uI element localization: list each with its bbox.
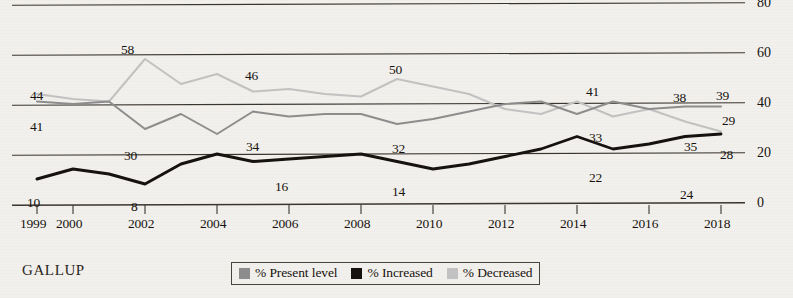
chart-page: 1999200020022004200620082010201220142016… xyxy=(0,0,793,298)
legend-swatch-increased xyxy=(351,268,362,279)
x-tick-label-2002: 2002 xyxy=(128,216,154,232)
series-line-present-level xyxy=(37,102,721,135)
y-tick-label-60: 60 xyxy=(757,45,771,61)
gallup-wordmark: GALLUP xyxy=(22,262,85,279)
series-lines-group xyxy=(37,59,721,184)
x-axis-ticks-group xyxy=(37,205,721,214)
data-label-38-2016: 38 xyxy=(673,90,686,106)
series-line-decreased xyxy=(37,59,721,132)
data-label-41-1999: 41 xyxy=(30,119,43,135)
data-label-29-2018: 29 xyxy=(722,113,735,129)
legend-label-decreased: % Decreased xyxy=(463,265,533,281)
data-label-16-2005: 16 xyxy=(275,179,288,195)
data-label-44-1999: 44 xyxy=(30,88,43,104)
data-label-33-2014: 33 xyxy=(589,130,602,146)
x-tick-label-2000: 2000 xyxy=(56,216,82,232)
x-tick-label-2012: 2012 xyxy=(488,216,514,232)
x-tick-label-2018: 2018 xyxy=(704,216,730,232)
y-tick-label-0: 0 xyxy=(757,195,764,211)
legend-label-increased: % Increased xyxy=(367,265,432,281)
data-label-24-2016: 24 xyxy=(680,187,693,203)
gridlines-group xyxy=(12,3,745,205)
data-label-30-2002: 30 xyxy=(124,148,137,164)
gridline-20 xyxy=(12,153,745,155)
y-tick-label-80: 80 xyxy=(757,0,771,11)
x-tick-label-2004: 2004 xyxy=(200,216,226,232)
data-label-46-2005: 46 xyxy=(245,68,258,84)
x-tick-label-2014: 2014 xyxy=(560,216,586,232)
legend-label-present-level: % Present level xyxy=(255,265,337,281)
gridline-0 xyxy=(12,203,745,205)
x-tick-label-1999: 1999 xyxy=(20,216,46,232)
data-label-8-2002: 8 xyxy=(131,199,138,215)
data-label-22-2014: 22 xyxy=(589,170,602,186)
legend-item-present-level[interactable]: % Present level xyxy=(239,265,337,281)
legend-item-increased[interactable]: % Increased xyxy=(351,265,432,281)
legend-item-decreased[interactable]: % Decreased xyxy=(447,265,533,281)
data-label-35-2017: 35 xyxy=(684,139,697,155)
data-label-39-2018: 39 xyxy=(716,88,729,104)
data-label-14-2009: 14 xyxy=(392,184,405,200)
y-tick-label-40: 40 xyxy=(757,95,771,111)
chart-legend: % Present level % Increased % Decreased xyxy=(231,262,540,285)
data-label-32-2009: 32 xyxy=(392,141,405,157)
data-label-10-1999: 10 xyxy=(27,195,40,211)
x-tick-label-2016: 2016 xyxy=(632,216,658,232)
data-label-41-2014: 41 xyxy=(586,84,599,100)
data-label-28-2018: 28 xyxy=(720,147,733,163)
legend-swatch-present-level xyxy=(239,268,250,279)
y-tick-label-20: 20 xyxy=(757,145,771,161)
series-line-increased xyxy=(37,134,721,184)
data-label-58-2002: 58 xyxy=(121,42,134,58)
data-label-50-2009: 50 xyxy=(389,62,402,78)
gridline-40 xyxy=(12,103,745,105)
gridline-80 xyxy=(12,3,745,5)
legend-swatch-decreased xyxy=(447,268,458,279)
x-tick-label-2010: 2010 xyxy=(416,216,442,232)
x-tick-label-2006: 2006 xyxy=(272,216,298,232)
data-label-34-2005: 34 xyxy=(246,139,259,155)
x-tick-label-2008: 2008 xyxy=(344,216,370,232)
